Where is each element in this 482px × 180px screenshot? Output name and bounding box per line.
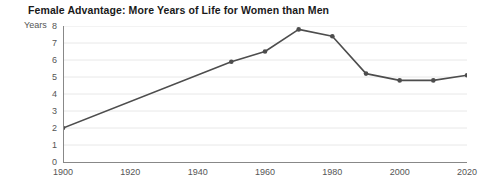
- x-axis-line: [63, 162, 467, 163]
- x-axis-tick-label: 2020: [447, 167, 482, 177]
- data-point-marker: [229, 59, 234, 64]
- series-polyline: [63, 29, 467, 128]
- y-axis-tick-label: 7: [37, 38, 57, 48]
- data-point-marker: [330, 34, 335, 39]
- x-axis-tick-label: 1920: [110, 167, 150, 177]
- gridlines: [63, 26, 467, 145]
- y-axis-tick-label: 0: [37, 157, 57, 167]
- data-point-marker: [296, 27, 301, 32]
- y-axis-tick-label: 2: [37, 123, 57, 133]
- y-axis-tick-label: 8: [37, 21, 57, 31]
- y-axis-tick-label: 6: [37, 55, 57, 65]
- x-axis-tick-label: 1900: [43, 167, 83, 177]
- data-series-line: [63, 29, 467, 128]
- data-point-marker: [364, 71, 369, 76]
- y-axis-tick-label: 1: [37, 140, 57, 150]
- x-axis-tick-label: 1940: [178, 167, 218, 177]
- x-axis-tick-label: 2000: [380, 167, 420, 177]
- plot-area: [63, 26, 467, 162]
- y-axis-tick-label: 3: [37, 106, 57, 116]
- y-axis-tick-label: 4: [37, 89, 57, 99]
- data-point-marker: [431, 78, 436, 83]
- data-point-marker: [263, 49, 268, 54]
- x-axis-tick-label: 1960: [245, 167, 285, 177]
- chart-plot-svg: [63, 26, 467, 162]
- y-axis-line: [63, 26, 64, 162]
- chart-title: Female Advantage: More Years of Life for…: [28, 4, 329, 16]
- y-axis-tick-label: 5: [37, 72, 57, 82]
- data-point-marker: [397, 78, 402, 83]
- x-axis-tick-label: 1980: [312, 167, 352, 177]
